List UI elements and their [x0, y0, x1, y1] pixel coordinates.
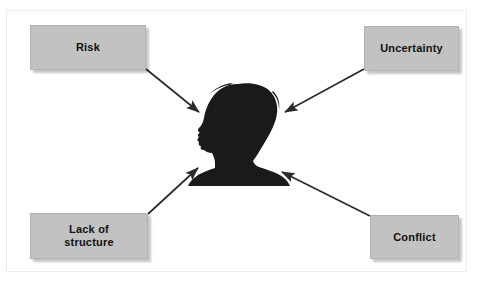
node-lack-of-structure-label-line1: Lack of: [69, 223, 109, 235]
diagram-canvas: Risk Uncertainty Lack of structure Confl…: [0, 0, 485, 283]
node-risk[interactable]: Risk: [30, 25, 146, 70]
person-silhouette-icon: [186, 82, 298, 186]
node-lack-of-structure-label-line2: structure: [64, 236, 113, 248]
node-conflict[interactable]: Conflict: [370, 215, 459, 259]
node-uncertainty-label: Uncertainty: [380, 42, 443, 55]
node-uncertainty[interactable]: Uncertainty: [364, 26, 459, 71]
node-lack-of-structure-label: Lack of structure: [64, 223, 113, 249]
node-lack-of-structure[interactable]: Lack of structure: [30, 213, 148, 259]
node-risk-label: Risk: [76, 41, 100, 54]
node-conflict-label: Conflict: [393, 231, 436, 244]
